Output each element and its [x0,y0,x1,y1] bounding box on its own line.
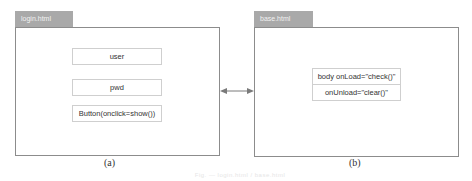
login-html-tab: login.html [15,11,73,27]
button-onclick-box: Button(onclick=show()) [72,105,162,122]
user-field-box: user [72,48,162,65]
panel-b-label: (b) [349,157,361,168]
double-arrow-icon [219,86,255,96]
pwd-field-box: pwd [72,79,162,96]
base-html-tab: base.html [254,11,313,27]
panel-a-label: (a) [104,157,115,168]
onunload-box: onUnload="clear()" [312,84,401,101]
body-onload-box: body onLoad="check()" [312,68,401,85]
figure-caption: Fig. — login.html / base.html [150,172,330,178]
